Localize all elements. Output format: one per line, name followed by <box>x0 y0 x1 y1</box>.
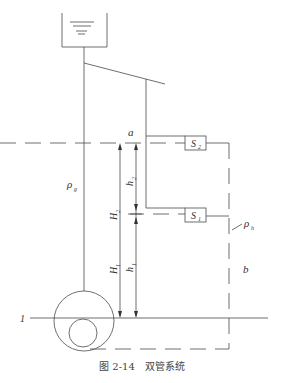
expansion-tank <box>62 13 107 47</box>
svg-text:h: h <box>251 225 254 231</box>
label-H2: H 2 <box>108 210 121 221</box>
label-S2: S 2 <box>191 138 201 150</box>
boiler-inner <box>69 319 97 347</box>
svg-text:g: g <box>74 186 77 192</box>
figure-caption: 图 2-14 双管系统 <box>99 360 185 372</box>
sloped-main <box>84 63 165 84</box>
label-h2: h 2 <box>124 177 137 186</box>
svg-text:1: 1 <box>198 216 201 222</box>
label-a: a <box>128 126 134 138</box>
svg-text:S: S <box>191 138 196 149</box>
label-b: b <box>243 263 249 275</box>
svg-text:1: 1 <box>131 263 137 266</box>
svg-text:h: h <box>124 267 135 272</box>
svg-text:2: 2 <box>198 144 201 150</box>
svg-text:h: h <box>124 181 135 186</box>
svg-text:ρ: ρ <box>66 178 72 190</box>
svg-text:2: 2 <box>131 177 137 180</box>
label-S1: S 1 <box>191 210 201 222</box>
svg-text:2: 2 <box>115 210 121 213</box>
svg-text:ρ: ρ <box>243 217 249 229</box>
boiler-outer <box>54 291 114 351</box>
label-H1: H 1 <box>108 264 121 275</box>
label-ref-1: 1 <box>20 313 25 324</box>
label-rho-g: ρ g <box>66 178 77 192</box>
svg-text:1: 1 <box>115 264 121 267</box>
label-h1: h 1 <box>124 263 137 272</box>
svg-text:S: S <box>191 210 196 221</box>
label-rho-h: ρ h <box>243 217 254 231</box>
double-pipe-system-diagram: a ρ g ρ h S 2 S 1 h 2 H 2 h 1 H 1 b 1 图 … <box>0 0 284 383</box>
